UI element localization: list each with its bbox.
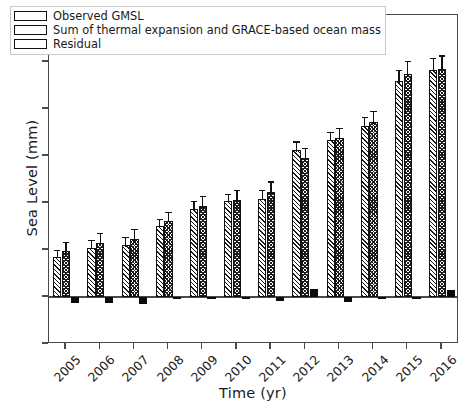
- error-bar-line: [91, 240, 92, 249]
- bar-2010-series2: [242, 297, 250, 299]
- error-bar-cap: [191, 201, 197, 202]
- error-bar-cap: [439, 55, 445, 56]
- legend-swatch-diagonal-hatch: [14, 11, 47, 21]
- error-bar-cap: [268, 181, 274, 182]
- y-axis-label: Sea Level (mm): [24, 68, 40, 288]
- x-tick-mark: [406, 343, 407, 349]
- error-bar-cap: [97, 233, 103, 234]
- error-bar-line: [433, 58, 434, 72]
- x-tick-mark: [64, 343, 65, 349]
- bar-2005-series1: [62, 251, 70, 297]
- legend-swatch-solid-black: [14, 39, 47, 49]
- error-bar-line: [339, 128, 340, 140]
- plot-area: [49, 15, 457, 342]
- bar-2011-series2: [276, 297, 284, 301]
- error-bar-cap: [259, 190, 265, 191]
- bar-2016-series1: [438, 69, 446, 297]
- bar-2006-series2: [105, 297, 113, 303]
- error-bar-cap: [131, 229, 137, 230]
- bar-2007-series1: [130, 239, 138, 297]
- bar-2005-series0: [53, 257, 61, 297]
- error-bar-cap: [234, 190, 240, 191]
- error-bar-line: [262, 190, 263, 200]
- error-bar-line: [65, 242, 66, 253]
- bar-2009-series0: [190, 209, 198, 297]
- legend-swatch-cross-hatch: [14, 25, 47, 35]
- error-bar-line: [134, 229, 135, 241]
- legend-label: Sum of thermal expansion and GRACE-based…: [53, 24, 381, 36]
- bar-2007-series2: [139, 297, 147, 304]
- error-bar-cap: [405, 61, 411, 62]
- bar-2014-series0: [361, 126, 369, 297]
- error-bar-line: [125, 237, 126, 246]
- error-bar-line: [398, 70, 399, 83]
- error-bar-cap: [396, 70, 402, 71]
- error-bar-cap: [362, 117, 368, 118]
- bar-2015-series2: [412, 297, 420, 299]
- x-tick-mark: [133, 343, 134, 349]
- bar-2016-series2: [447, 290, 455, 297]
- x-tick-mark: [372, 343, 373, 349]
- sea-level-bar-chart: Sea Level (mm) Time (yr) −10010203040506…: [0, 0, 475, 411]
- bar-2015-series0: [395, 81, 403, 297]
- error-bar-cap: [165, 212, 171, 213]
- bar-2005-series2: [71, 297, 79, 303]
- bar-2009-series1: [199, 206, 207, 297]
- error-bar-line: [305, 148, 306, 161]
- bar-2008-series1: [164, 221, 172, 297]
- error-bar-cap: [122, 237, 128, 238]
- error-bar-line: [159, 219, 160, 227]
- error-bar-line: [193, 201, 194, 210]
- x-tick-mark: [269, 343, 270, 349]
- error-bar-cap: [336, 128, 342, 129]
- bar-2008-series2: [173, 297, 181, 299]
- legend-item: Observed GMSL: [14, 9, 381, 22]
- bar-2006-series0: [87, 248, 95, 297]
- error-bar-line: [57, 250, 58, 259]
- error-bar-cap: [293, 141, 299, 142]
- error-bar-line: [407, 61, 408, 76]
- bar-2013-series1: [335, 138, 343, 297]
- error-bar-cap: [63, 242, 69, 243]
- bar-2016-series0: [429, 70, 437, 297]
- error-bar-cap: [327, 132, 333, 133]
- x-tick-mark: [201, 343, 202, 349]
- bar-2011-series1: [267, 192, 275, 297]
- error-bar-line: [441, 55, 442, 71]
- legend-item: Sum of thermal expansion and GRACE-based…: [14, 23, 381, 36]
- bar-2013-series0: [327, 140, 335, 297]
- x-tick-mark: [440, 343, 441, 349]
- bar-2012-series1: [301, 158, 309, 297]
- x-tick-mark: [304, 343, 305, 349]
- error-bar-cap: [370, 111, 376, 112]
- bar-2010-series0: [224, 201, 232, 297]
- error-bar-cap: [302, 148, 308, 149]
- error-bar-line: [100, 233, 101, 245]
- error-bar-cap: [225, 194, 231, 195]
- bar-2013-series2: [344, 297, 352, 302]
- bar-2012-series2: [310, 289, 318, 297]
- error-bar-cap: [430, 58, 436, 59]
- legend-label: Observed GMSL: [53, 10, 144, 22]
- error-bar-cap: [200, 196, 206, 197]
- error-bar-line: [236, 190, 237, 201]
- error-bar-line: [330, 132, 331, 141]
- bar-2014-series2: [378, 297, 386, 299]
- bar-2015-series1: [404, 74, 412, 297]
- error-bar-line: [364, 117, 365, 128]
- bar-2014-series1: [369, 122, 377, 297]
- x-tick-mark: [235, 343, 236, 349]
- error-bar-line: [202, 196, 203, 208]
- error-bar-cap: [157, 219, 163, 220]
- legend: Observed GMSLSum of thermal expansion an…: [10, 6, 386, 55]
- bar-2011-series0: [258, 199, 266, 297]
- error-bar-cap: [88, 240, 94, 241]
- error-bar-cap: [54, 250, 60, 251]
- bar-2010-series1: [233, 200, 241, 297]
- bar-2007-series0: [122, 245, 130, 297]
- bar-2012-series0: [292, 150, 300, 297]
- x-tick-mark: [99, 343, 100, 349]
- x-tick-mark: [338, 343, 339, 349]
- bar-2009-series2: [207, 297, 215, 299]
- plot-frame: [48, 14, 458, 343]
